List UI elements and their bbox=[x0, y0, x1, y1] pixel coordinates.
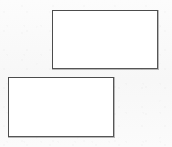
upper-rectangle[interactable] bbox=[52, 10, 158, 69]
drawing-canvas bbox=[0, 0, 172, 147]
lower-rectangle[interactable] bbox=[8, 77, 114, 137]
